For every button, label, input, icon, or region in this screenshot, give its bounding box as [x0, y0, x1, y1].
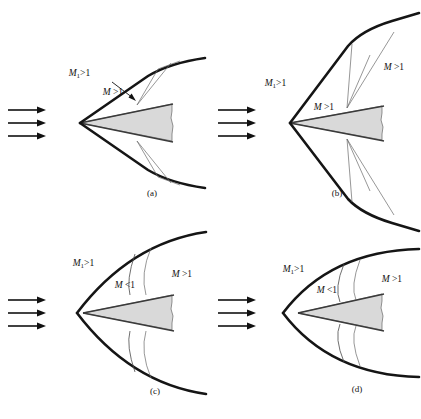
inflow-arrow	[8, 133, 46, 140]
panel-c-subsonic-region-label: M <1	[98, 280, 147, 290]
panel-d-caption: (d)	[352, 384, 363, 394]
panel-a-post-shock-mach-label: M >1	[86, 87, 135, 97]
panel-b-post-shock-mach-label-inner: M >1	[297, 102, 346, 112]
panel-b: M1>1 M >1 M >1 (b)	[218, 13, 419, 231]
figure-root: M1>1 M >1 (a)	[0, 0, 421, 419]
panel-c-supersonic-region-label: M >1	[155, 269, 204, 279]
panel-a-freestream-mach-label: M1>1	[52, 68, 102, 80]
inflow-arrow	[8, 120, 46, 127]
inflow-arrow	[218, 120, 256, 127]
panel-a-inflow-arrows	[8, 107, 46, 140]
panel-a: M1>1 M >1 (a)	[8, 58, 205, 198]
panel-b-lower-shock	[290, 123, 419, 231]
inflow-arrow	[218, 323, 256, 330]
inflow-arrow	[218, 107, 256, 114]
shock-wave-figure: M1>1 M >1 (a)	[0, 0, 421, 419]
inflow-arrow	[8, 310, 46, 317]
inflow-arrow	[8, 323, 46, 330]
panel-c-body	[83, 295, 173, 330]
panel-d-supersonic-region-label: M >1	[365, 274, 414, 284]
panel-b-freestream-mach-label: M1>1	[248, 78, 298, 90]
panel-c-inflow-arrows	[8, 297, 46, 330]
inflow-arrow	[218, 310, 256, 317]
panel-d-body	[298, 294, 383, 330]
panel-c: M1>1 M <1 M >1 (c)	[8, 232, 206, 396]
panel-c-freestream-mach-label: M1>1	[56, 258, 106, 270]
panel-d-inflow-arrows	[218, 297, 256, 330]
panel-d-freestream-mach-label: M1>1	[266, 264, 316, 276]
panel-b-post-shock-mach-label-outer: M >1	[367, 62, 416, 72]
inflow-arrow	[218, 133, 256, 140]
inflow-arrow	[218, 297, 256, 304]
panel-c-caption: (c)	[150, 386, 160, 396]
panel-a-caption: (a)	[147, 188, 157, 198]
panel-b-caption: (b)	[332, 188, 343, 198]
inflow-arrow	[8, 107, 46, 114]
panel-b-inflow-arrows	[218, 107, 256, 140]
panel-a-body	[80, 104, 173, 141]
panel-d: M1>1 M <1 M >1 (d)	[218, 249, 419, 394]
inflow-arrow	[8, 297, 46, 304]
panel-d-subsonic-region-label: M <1	[300, 285, 349, 295]
